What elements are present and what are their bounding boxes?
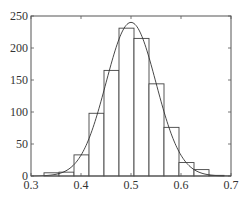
histogram-bar <box>119 28 134 176</box>
histogram-bar <box>149 84 164 176</box>
histogram-bar <box>89 113 104 176</box>
histogram-chart: 0.30.40.50.60.7 050100150200250 <box>0 0 247 200</box>
x-tick-label: 0.6 <box>174 178 189 192</box>
y-tick-label: 50 <box>16 137 28 151</box>
y-tick-label: 250 <box>10 9 28 23</box>
y-tick-label: 100 <box>10 105 28 119</box>
histogram-bar <box>134 38 149 176</box>
x-tick-labels: 0.30.40.50.60.7 <box>24 178 239 192</box>
x-tick-label: 0.5 <box>124 178 139 192</box>
y-tick-labels: 050100150200250 <box>10 9 28 183</box>
histogram-bar <box>104 70 119 176</box>
y-tick-label: 200 <box>10 41 28 55</box>
x-tick-label: 0.7 <box>224 178 239 192</box>
bars-group <box>44 28 224 176</box>
y-tick-label: 150 <box>10 73 28 87</box>
x-tick-label: 0.4 <box>74 178 89 192</box>
histogram-bar <box>74 155 89 176</box>
y-tick-label: 0 <box>22 169 28 183</box>
